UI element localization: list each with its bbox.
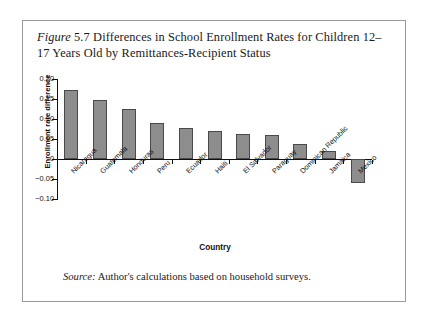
y-axis-tick-label: 0.15 <box>14 95 54 102</box>
x-axis-category-label: Peru <box>155 158 172 175</box>
source-label: Source: <box>63 271 96 282</box>
bar <box>236 134 250 159</box>
x-axis-title: Country <box>23 243 407 252</box>
chart-plot-area: Enrollment rate difference 0.200.150.100… <box>23 21 407 303</box>
y-axis-tick-label: −0.05 <box>14 175 54 182</box>
x-axis-category-label: Haiti <box>213 159 230 176</box>
x-axis-tick <box>229 160 230 164</box>
zero-baseline <box>57 159 372 160</box>
y-axis-tick-label: 0.10 <box>14 115 54 122</box>
source-note: Source: Author's calculations based on h… <box>63 271 311 282</box>
y-axis-tick-label: 0.05 <box>14 135 54 142</box>
y-axis-tick-label: 0.20 <box>14 75 54 82</box>
bar <box>208 131 222 159</box>
figure-frame: Figure 5.7 Differences in School Enrollm… <box>22 20 406 302</box>
x-axis-tick <box>57 160 58 164</box>
y-axis-tick-label: −0.10 <box>14 195 54 202</box>
bar <box>179 128 193 159</box>
y-axis-tick-label: 0 <box>14 155 54 162</box>
x-axis-category-label: Mexico <box>356 153 378 175</box>
source-text: Author's calculations based on household… <box>96 271 311 282</box>
bar <box>64 90 78 159</box>
